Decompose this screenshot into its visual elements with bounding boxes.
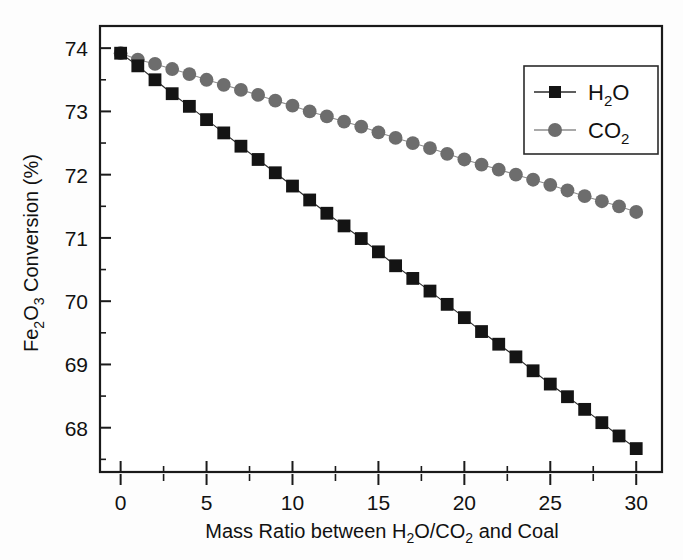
data-point-h2o (355, 232, 368, 245)
data-point-co2 (303, 105, 317, 119)
x-axis-title-text-coal: and Coal (473, 520, 559, 542)
data-point-co2 (543, 178, 557, 192)
legend[interactable]: H2O CO2 (524, 66, 658, 154)
data-point-co2 (475, 158, 489, 172)
x-tick-label: 5 (201, 491, 213, 514)
x-tick-label: 15 (367, 491, 390, 514)
data-point-h2o (269, 166, 282, 179)
data-point-co2 (629, 205, 643, 219)
y-axis-title-text-o: O (20, 305, 42, 321)
data-point-h2o (578, 403, 591, 416)
data-point-h2o (561, 390, 574, 403)
data-point-co2 (595, 194, 609, 208)
data-point-co2 (423, 141, 437, 155)
data-point-co2 (509, 168, 523, 182)
data-point-h2o (235, 140, 248, 153)
x-axis-title-sub-h2o: 2 (406, 530, 414, 546)
y-axis-title: Fe2O3 Conversion (%) (20, 154, 47, 352)
data-point-h2o (166, 87, 179, 100)
y-axis-tick-labels: 68697071727374 (65, 37, 89, 440)
y-tick-label: 70 (65, 290, 88, 313)
y-tick-label: 72 (65, 164, 88, 187)
data-point-h2o (149, 73, 162, 86)
x-axis-title-sub-co2: 2 (465, 530, 473, 546)
x-tick-label: 30 (625, 491, 648, 514)
data-point-co2 (148, 57, 162, 71)
data-point-h2o (338, 220, 351, 233)
data-point-h2o (217, 127, 230, 140)
data-point-h2o (630, 442, 643, 455)
data-point-co2 (440, 147, 454, 161)
data-point-co2 (612, 199, 626, 213)
data-point-h2o (492, 338, 505, 351)
data-point-co2 (578, 189, 592, 203)
data-point-h2o (389, 259, 402, 272)
data-point-h2o (286, 180, 299, 193)
y-axis-title-text: Fe (20, 329, 42, 352)
data-point-co2 (320, 110, 334, 124)
data-point-h2o (303, 194, 316, 207)
data-point-co2 (406, 136, 420, 150)
data-point-h2o (372, 245, 385, 258)
y-axis-title-text-rest: Conversion (%) (20, 154, 42, 297)
data-point-co2 (268, 94, 282, 108)
x-axis-title-text-o-co: O/CO (414, 520, 465, 542)
data-point-co2 (372, 125, 386, 139)
data-point-h2o (441, 298, 454, 311)
data-point-h2o (320, 207, 333, 220)
data-point-co2 (182, 67, 196, 81)
x-tick-label: 0 (115, 491, 127, 514)
data-point-h2o (544, 378, 557, 391)
data-point-h2o (527, 364, 540, 377)
y-tick-label: 69 (65, 353, 88, 376)
y-tick-label: 68 (65, 417, 88, 440)
data-point-co2 (165, 62, 179, 76)
data-point-h2o (424, 285, 437, 298)
y-axis-title-sub-2: 2 (31, 321, 47, 329)
data-point-co2 (217, 78, 231, 92)
data-point-h2o (595, 416, 608, 429)
y-tick-label: 74 (65, 37, 89, 60)
data-point-co2 (389, 131, 403, 145)
circle-marker-icon (548, 123, 562, 137)
data-point-co2 (526, 173, 540, 187)
data-point-h2o (183, 100, 196, 113)
data-point-h2o (458, 311, 471, 324)
data-point-h2o (406, 272, 419, 285)
data-point-h2o (114, 47, 127, 60)
data-point-co2 (561, 184, 575, 198)
data-point-h2o (613, 430, 626, 443)
data-point-h2o (475, 325, 488, 338)
x-tick-label: 10 (281, 491, 304, 514)
square-marker-icon (549, 86, 561, 98)
x-axis-tick-labels: 051015202530 (115, 491, 648, 514)
data-point-h2o (131, 59, 144, 72)
y-tick-label: 71 (65, 227, 88, 250)
x-axis-title: Mass Ratio between H2O/CO2 and Coal (205, 520, 559, 546)
data-point-co2 (286, 99, 300, 113)
data-point-h2o (200, 113, 213, 126)
data-point-co2 (337, 115, 351, 129)
x-tick-label: 20 (453, 491, 476, 514)
data-point-co2 (492, 163, 506, 177)
data-point-co2 (251, 88, 265, 102)
data-point-h2o (252, 153, 265, 166)
data-point-co2 (200, 73, 214, 87)
data-point-h2o (510, 350, 523, 363)
x-axis-title-text: Mass Ratio between H (205, 520, 406, 542)
svg-text:Fe2O3 Conversion (%): Fe2O3 Conversion (%) (20, 154, 47, 352)
y-axis-title-sub-3: 3 (31, 297, 47, 305)
data-point-co2 (457, 153, 471, 167)
data-point-co2 (234, 83, 248, 97)
fe2o3-conversion-line-chart: 68697071727374 051015202530 Fe2O3 Conver… (0, 0, 683, 560)
y-tick-label: 73 (65, 100, 88, 123)
x-tick-label: 25 (539, 491, 562, 514)
svg-text:Mass Ratio between H2O/CO2 and: Mass Ratio between H2O/CO2 and Coal (205, 520, 559, 546)
data-point-co2 (354, 120, 368, 134)
chart-page: 68697071727374 051015202530 Fe2O3 Conver… (0, 0, 683, 560)
